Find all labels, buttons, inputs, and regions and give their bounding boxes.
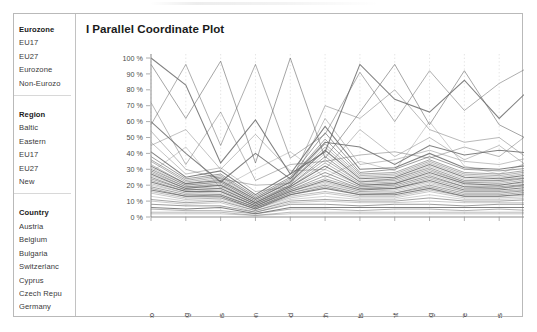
series-line [151, 58, 524, 174]
sidebar-item-switzerland[interactable]: Switzerlanc [19, 260, 75, 273]
y-axis-tick-label: 30 % [127, 165, 144, 174]
scan-artifact [150, 2, 380, 5]
x-axis-tick-label: Hotels & Restaurants [356, 313, 365, 318]
y-axis-tick-label: 0 % [131, 213, 144, 222]
x-axis-tick-label: Alcohol & Tobacco [147, 313, 156, 318]
y-axis-tick-label: 20 % [127, 181, 144, 190]
sidebar-group-eurozone: Eurozone EU17 EU27 Eurozone Non-Eurozo [14, 14, 75, 90]
x-axis-tick-label: Health [321, 313, 330, 318]
sidebar-item-cyprus[interactable]: Cyprus [19, 274, 75, 287]
y-axis-tick-label: 80 % [127, 85, 144, 94]
sidebar-group-header-country: Country [19, 206, 75, 219]
x-axis-tick-label: Communications [217, 313, 226, 318]
sidebar-item-austria[interactable]: Austria [19, 220, 75, 233]
sidebar-group-header-region: Region [19, 108, 75, 121]
y-axis-tick-label: 100 % [123, 54, 144, 63]
parallel-coordinate-plot-widget: Eurozone EU17 EU27 Eurozone Non-Eurozo R… [13, 13, 523, 317]
y-axis-tick-label: 70 % [127, 101, 144, 110]
sidebar-item-region-eu17[interactable]: EU17 [19, 148, 75, 161]
x-axis-tick-label: Household Equipment [391, 313, 400, 318]
y-axis-tick-label: 40 % [127, 149, 144, 158]
sidebar-item-eu17[interactable]: EU17 [19, 36, 75, 49]
sidebar-item-eastern[interactable]: Eastern [19, 135, 75, 148]
x-axis-tick-label: Food [286, 313, 295, 318]
sidebar-item-eu27[interactable]: EU27 [19, 50, 75, 63]
y-axis-tick-label: 50 % [127, 133, 144, 142]
sidebar-item-region-eu27[interactable]: EU27 [19, 162, 75, 175]
filter-sidebar[interactable]: Eurozone EU17 EU27 Eurozone Non-Eurozo R… [14, 14, 76, 316]
sidebar-item-bulgaria[interactable]: Bulgaria [19, 247, 75, 260]
sidebar-item-non-eurozone[interactable]: Non-Eurozo [19, 77, 75, 90]
sidebar-group-country: Country Austria Belgium Bulgaria Switzer… [14, 194, 75, 313]
sidebar-item-czech-republic[interactable]: Czech Repu [19, 287, 75, 300]
y-axis-tick-label: 90 % [127, 70, 144, 79]
x-axis-tick-label: Education [251, 313, 260, 318]
sidebar-item-eurozone[interactable]: Eurozone [19, 63, 75, 76]
x-axis-tick-label: Services [495, 313, 504, 318]
sidebar-item-germany[interactable]: Germany [19, 300, 75, 313]
x-axis-tick-label: Recreation & Culture [460, 313, 469, 318]
sidebar-group-region: Region Baltic Eastern EU17 EU27 New [14, 96, 75, 188]
sidebar-item-new[interactable]: New [19, 175, 75, 188]
y-axis-tick-label: 10 % [127, 197, 144, 206]
chart-panel: IParallel Coordinate Plot 0 %10 %20 %30 … [76, 14, 522, 316]
sidebar-item-belgium[interactable]: Belgium [19, 233, 75, 246]
parallel-coordinates-svg[interactable]: 0 %10 %20 %30 %40 %50 %60 %70 %80 %90 %1… [76, 14, 524, 318]
x-axis-tick-label: Clothing [182, 313, 191, 318]
sidebar-group-header-eurozone: Eurozone [19, 23, 75, 36]
series-line [151, 130, 524, 171]
series-line [151, 214, 524, 216]
x-axis-tick-label: Housing [426, 313, 435, 318]
y-axis-tick-label: 60 % [127, 117, 144, 126]
series-line [151, 209, 524, 214]
series-group [151, 58, 524, 215]
sidebar-item-baltic[interactable]: Baltic [19, 121, 75, 134]
